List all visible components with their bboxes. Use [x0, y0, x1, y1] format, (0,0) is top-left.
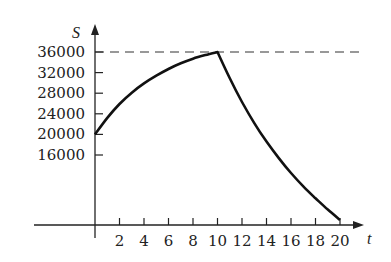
x-tick-label: 2 [115, 232, 125, 250]
y-tick-label: 24000 [37, 105, 85, 123]
x-axis-label: t [367, 230, 372, 247]
x-tick-label: 16 [281, 232, 300, 250]
y-tick-label: 28000 [37, 84, 85, 102]
data-curve [95, 52, 340, 220]
chart: 160002000024000280003200036000 246810121… [0, 0, 391, 262]
y-tick-label: 20000 [37, 125, 85, 143]
x-tick-label: 18 [306, 232, 325, 250]
x-tick-label: 4 [139, 232, 149, 250]
x-tick-label: 8 [188, 232, 198, 250]
y-axis-ticks: 160002000024000280003200036000 [37, 43, 103, 164]
y-axis-label: S [72, 24, 80, 41]
y-tick-label: 16000 [37, 146, 85, 164]
x-axis-ticks: 2468101214161820 [115, 218, 350, 250]
y-tick-label: 32000 [37, 64, 85, 82]
x-tick-label: 20 [330, 232, 349, 250]
x-tick-label: 6 [164, 232, 174, 250]
y-axis-arrow-icon [91, 24, 99, 35]
x-tick-label: 10 [208, 232, 227, 250]
x-tick-label: 14 [257, 232, 276, 250]
y-tick-label: 36000 [37, 43, 85, 61]
x-tick-label: 12 [232, 232, 251, 250]
x-axis-arrow-icon [353, 221, 364, 229]
